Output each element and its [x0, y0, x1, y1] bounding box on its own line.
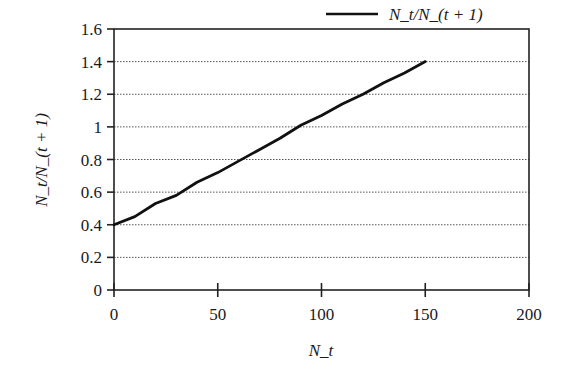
x-tick-label: 100 — [309, 305, 335, 324]
x-tick-label: 0 — [110, 305, 119, 324]
y-axis-ticks: 00.20.40.60.811.21.41.6 — [81, 20, 114, 300]
y-tick-label: 0.8 — [81, 151, 102, 170]
x-tick-label: 150 — [413, 305, 439, 324]
data-series — [114, 62, 425, 225]
y-tick-label: 0.6 — [81, 183, 102, 202]
x-axis-ticks: 050100150200 — [110, 283, 542, 324]
y-tick-label: 1.6 — [81, 20, 102, 39]
gridlines — [114, 62, 529, 258]
y-tick-label: 1.2 — [81, 85, 102, 104]
series-line — [114, 62, 425, 225]
x-tick-label: 200 — [516, 305, 542, 324]
y-tick-label: 0 — [94, 281, 103, 300]
line-chart: 00.20.40.60.811.21.41.6 050100150200 N_t… — [0, 0, 572, 383]
legend-label: N_t/N_(t + 1) — [388, 5, 483, 24]
y-tick-label: 1 — [94, 118, 103, 137]
y-tick-label: 1.4 — [81, 53, 103, 72]
y-tick-label: 0.2 — [81, 248, 102, 267]
y-tick-label: 0.4 — [81, 216, 103, 235]
x-tick-label: 50 — [209, 305, 226, 324]
x-axis-title: N_t — [308, 341, 335, 360]
legend: N_t/N_(t + 1) — [326, 5, 483, 24]
y-axis-title: N_t/N_(t + 1) — [32, 113, 51, 208]
